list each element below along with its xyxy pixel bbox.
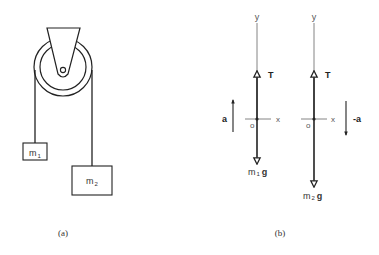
- origin-point-1: [255, 117, 258, 120]
- weight-label-2: m2g: [303, 191, 322, 201]
- x-axis-label-1: x: [276, 115, 280, 124]
- pulley-axle-icon: [60, 67, 65, 72]
- origin-point-2: [312, 117, 315, 120]
- origin-label-2: o: [306, 121, 311, 130]
- caption-b: (b): [275, 228, 286, 238]
- free-body-diagram-2: y x o T m2g -a: [301, 12, 362, 201]
- y-axis-label-1: y: [255, 12, 260, 22]
- x-axis-label-2: x: [331, 115, 335, 124]
- tension-label-2: T: [325, 70, 331, 80]
- tension-label-1: T: [268, 70, 274, 80]
- caption-a: (a): [58, 228, 68, 238]
- diagram-canvas: m1 m2 (a) y x o T m1g a y x o T m2g -a (…: [0, 0, 379, 255]
- acceleration-label-1: a: [222, 114, 228, 124]
- free-body-diagram-1: y x o T m1g a: [222, 12, 280, 177]
- acceleration-label-2: -a: [353, 114, 362, 124]
- origin-label-1: o: [250, 121, 255, 130]
- weight-label-1: m1g: [248, 167, 267, 177]
- y-axis-label-2: y: [312, 12, 317, 22]
- atwood-machine: m1 m2 (a): [23, 28, 112, 238]
